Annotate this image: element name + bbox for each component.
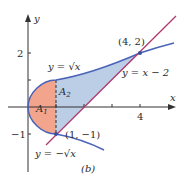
x-axis-label: x (170, 92, 176, 103)
y-axis-label: y (33, 13, 40, 24)
label-line: y = x − 2 (121, 67, 169, 78)
point-4-2 (138, 51, 142, 55)
y-axis-arrow-icon (25, 14, 31, 22)
figure-caption: (b) (81, 163, 95, 174)
label-point-1-neg1: (1, −1) (65, 129, 100, 140)
y-tick-label-2: 2 (17, 48, 23, 59)
point-1-neg1 (54, 132, 58, 136)
x-axis-arrow-icon (168, 104, 176, 110)
label-point-4-2: (4, 2) (118, 36, 145, 47)
label-sqrt-x: y = √x (47, 61, 81, 72)
plot-svg: y x 4 2 −1 y = √x y = −√x y = x − 2 (4, … (0, 0, 180, 179)
y-tick-label-neg1: −1 (11, 129, 26, 140)
label-neg-sqrt-x: y = −√x (34, 148, 76, 159)
figure-area-between-curves: y x 4 2 −1 y = √x y = −√x y = x − 2 (4, … (0, 0, 180, 179)
x-tick-label-4: 4 (137, 111, 143, 122)
